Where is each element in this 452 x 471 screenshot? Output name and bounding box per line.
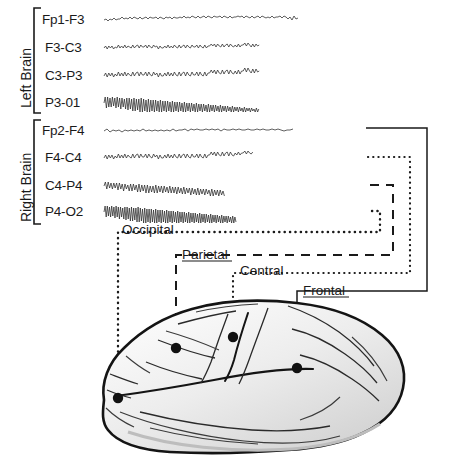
eeg-traces	[104, 16, 298, 223]
eeg-trace-fp2-f4	[104, 129, 293, 132]
eeg-trace-c3-p3	[104, 68, 259, 77]
eeg-trace-f4-c4	[104, 151, 253, 159]
eeg-brain-region-figure: Left Brain Right Brain Fp1-F3 F3-C3 C3-P…	[0, 0, 452, 471]
eeg-trace-fp1-f3	[104, 16, 298, 21]
electrode-dot-central	[228, 332, 238, 342]
figure-vector-layer	[0, 0, 452, 471]
brain-illustration	[103, 301, 404, 453]
bracket-left-brain	[34, 8, 41, 113]
electrode-dot-occipital	[113, 393, 123, 403]
bracket-right-brain	[34, 120, 41, 224]
electrode-dot-parietal	[171, 343, 181, 353]
eeg-trace-f3-c3	[104, 43, 259, 49]
electrode-dot-frontal	[292, 363, 302, 373]
eeg-trace-p3-01	[104, 97, 259, 112]
eeg-trace-c4-p4	[104, 182, 224, 196]
eeg-trace-p4-o2	[104, 206, 236, 223]
